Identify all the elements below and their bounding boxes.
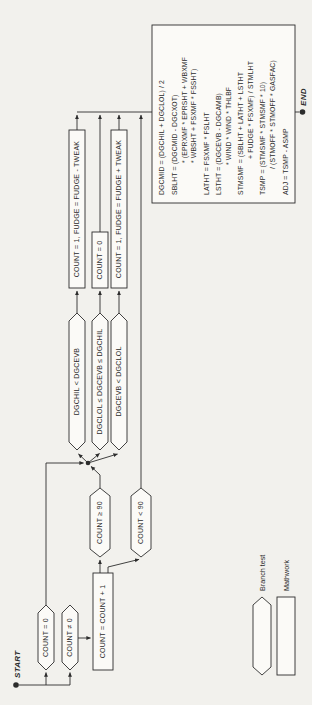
- mathwork-fudge-up-label: COUNT = 1, FUDGE = FUDGE + TWEAK: [115, 140, 122, 278]
- mathwork-increment-count-label: COUNT = COUNT + 1: [99, 585, 106, 659]
- end-dot: [300, 109, 306, 115]
- formula-line: ADJ = TSMP - ASMP: [282, 128, 289, 195]
- legend-mathwork-box: [277, 597, 295, 675]
- branch-count-ge-90-label: COUNT ≥ 90: [96, 501, 103, 544]
- start-label: START: [13, 650, 22, 678]
- end-label: END: [299, 88, 308, 106]
- end-terminal: END: [299, 88, 308, 115]
- mathwork-increment-count: COUNT = COUNT + 1: [93, 573, 113, 670]
- start-dot: [13, 682, 19, 688]
- rotated-diagram-container: START COUNT = 0 COUNT ≠ 0: [0, 0, 312, 705]
- legend-branch-test-label: Branch test: [258, 555, 267, 591]
- branch-count-ge-90: COUNT ≥ 90: [90, 488, 110, 557]
- connector-ge90-to-junction: [91, 466, 100, 488]
- formula-line: LSTHT = (DGCEVB - DGCAMB): [215, 93, 223, 195]
- branch-evb-in-range-label: DGCLOL ≤ DGCEVB ≤ DGCHIL: [96, 329, 103, 435]
- scanned-flowchart-page: START COUNT = 0 COUNT ≠ 0: [0, 0, 312, 705]
- connector-increment-to-lt90: [108, 559, 139, 573]
- branch-count-ne-0-label: COUNT ≠ 0: [66, 618, 73, 657]
- legend-branch-test-hexagon: [253, 597, 271, 675]
- formula-line: * WBSHT + FSXMF * FSSHT): [190, 69, 198, 163]
- branch-count-ne-0: COUNT ≠ 0: [62, 605, 78, 670]
- flowchart-canvas: START COUNT = 0 COUNT ≠ 0: [0, 0, 312, 705]
- formula-line: * WIND * WIND * THLBF: [225, 87, 232, 165]
- branch-count-eq-0: COUNT = 0: [38, 605, 54, 670]
- branch-evb-in-range: DGCLOL ≤ DGCEVB ≤ DGCHIL: [92, 313, 108, 450]
- connector-junction-to-low-test: [88, 454, 118, 463]
- formula-line: + FUDGE * FSXMF) / STMLHT: [247, 61, 255, 159]
- mathwork-count-reset: COUNT = 0: [92, 232, 108, 288]
- branch-count-eq-0-label: COUNT = 0: [42, 618, 49, 657]
- formula-box: DGCMID = (DGCHIL + DGCLOL) / 2 SBLHT = (…: [152, 25, 295, 203]
- start-terminal: START: [13, 650, 22, 688]
- formula-line: LATHT = FSXMF * FSLHT: [203, 112, 210, 195]
- formula-line: STMSMF = (SBLHT + LATHT + LSTHT: [237, 72, 245, 195]
- mathwork-fudge-up: COUNT = 1, FUDGE = FUDGE + TWEAK: [111, 130, 127, 288]
- connector-junction-to-high-test: [79, 454, 89, 463]
- connector-eq0-to-junction: [46, 463, 84, 605]
- formula-line: DGCMID = (DGCHIL + DGCLOL) / 2: [158, 80, 166, 195]
- mathwork-fudge-down-label: COUNT = 1, FUDGE = FUDGE - TWEAK: [73, 141, 80, 278]
- legend-mathwork-label: Mathwork: [282, 559, 291, 591]
- branch-count-lt-90-label: COUNT < 90: [137, 501, 144, 544]
- formula-line: / (STMOFF * STMOFF * GASFAC): [269, 60, 277, 169]
- branch-count-lt-90: COUNT < 90: [131, 488, 151, 557]
- mathwork-count-reset-label: COUNT = 0: [96, 241, 103, 280]
- legend: Branch test Mathwork: [253, 555, 295, 675]
- formula-line: TSMP = (STMSMF * STMSMF * 10): [259, 82, 267, 195]
- branch-evb-below-low: DGCEVB < DGCLOL: [111, 313, 127, 450]
- formula-line: SBLHT = (DGCMID - DGCXOT): [171, 95, 179, 196]
- branch-evb-below-low-label: DGCEVB < DGCLOL: [115, 346, 122, 416]
- branch-evb-above-high: DGCHIL < DGCEVB: [69, 313, 85, 450]
- branch-evb-above-high-label: DGCHIL < DGCEVB: [73, 348, 80, 416]
- mathwork-fudge-down: COUNT = 1, FUDGE = FUDGE - TWEAK: [69, 130, 85, 288]
- formula-line: * (EPRXMF * EPRSHT + WBXMF: [181, 57, 189, 163]
